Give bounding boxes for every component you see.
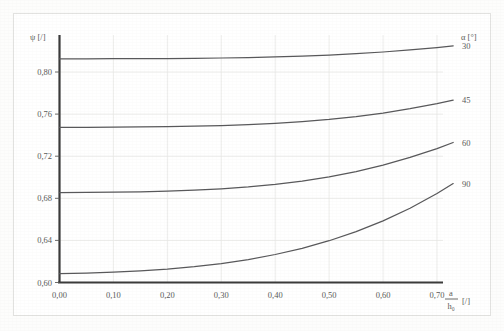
x-axis-title-denominator: h₀ <box>447 301 454 311</box>
legend-entry-30: 30 <box>462 41 471 51</box>
y-tick-labels-group: 0,800,760,720,680,640,60 <box>37 67 59 288</box>
curve-alpha-30 <box>60 46 454 59</box>
y-tick-label: 0,72 <box>37 151 52 161</box>
chart-figure: 0,800,760,720,680,640,60 0,000,100,200,3… <box>0 0 504 331</box>
y-tick-label: 0,64 <box>37 235 53 245</box>
curve-alpha-60 <box>60 143 454 193</box>
legend-entry-60: 60 <box>462 138 471 148</box>
x-tick-label: 0,40 <box>268 290 283 300</box>
x-tick-label: 0,30 <box>214 290 229 300</box>
y-axis-title: ψ [/] <box>30 32 46 42</box>
x-tick-label: 0,20 <box>160 290 175 300</box>
y-tick-label: 0,80 <box>37 67 52 77</box>
x-tick-label: 0,70 <box>430 290 445 300</box>
x-tick-label: 0,50 <box>322 290 337 300</box>
x-axis-title: a h₀ [/] <box>445 288 470 311</box>
x-tick-label: 0,10 <box>106 290 121 300</box>
y-tick-label: 0,76 <box>37 109 52 119</box>
y-tick-label: 0,68 <box>37 193 52 203</box>
legend-entry-45: 45 <box>462 95 471 105</box>
x-tick-label: 0,00 <box>52 290 67 300</box>
x-axis-title-numerator: a <box>449 288 453 298</box>
chart-plot-svg: 0,800,760,720,680,640,60 0,000,100,200,3… <box>0 0 504 331</box>
curve-alpha-90 <box>60 184 454 274</box>
gridlines-group <box>60 35 444 283</box>
x-tick-label: 0,60 <box>376 290 391 300</box>
curves-group <box>60 46 454 274</box>
y-tick-label: 0,60 <box>37 278 52 288</box>
legend-labels-group: 30456090 <box>462 41 471 189</box>
legend-entry-90: 90 <box>462 179 471 189</box>
x-axis-title-unit: [/] <box>462 296 470 306</box>
x-tick-labels-group: 0,000,100,200,300,400,500,600,70 <box>52 290 444 300</box>
legend-title: α [°] <box>461 32 477 42</box>
